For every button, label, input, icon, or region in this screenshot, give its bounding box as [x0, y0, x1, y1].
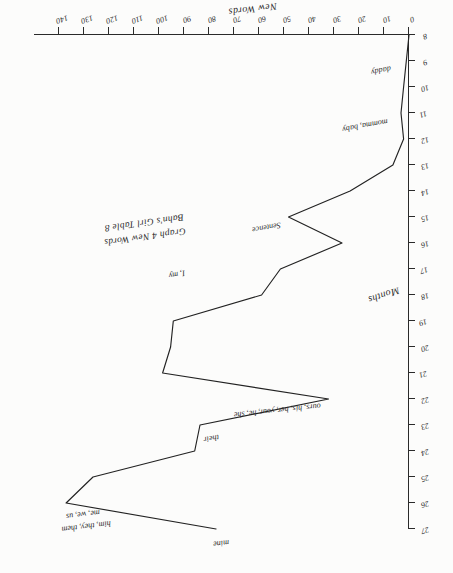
scanned-chart-page: 8 9 10 11 12 13 14 15 16 17 18 19 [0, 0, 453, 573]
data-series-line [0, 0, 453, 573]
annotation-mine: mine [213, 538, 230, 549]
rotated-figure-canvas: 8 9 10 11 12 13 14 15 16 17 18 19 [0, 0, 453, 573]
